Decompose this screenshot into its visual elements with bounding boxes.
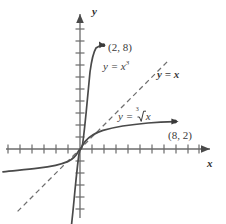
curve-label-identity: y = x (157, 69, 179, 80)
x-axis-arrowhead (201, 145, 210, 153)
cubic-endpoint-dot (102, 43, 106, 47)
point-label-2-8: (2, 8) (108, 42, 132, 53)
point-label-8-2: (8, 2) (168, 130, 192, 141)
graph-figure: y x (2, 8) y = x3 y = x y = 3x (8, 2) (0, 0, 226, 224)
cuberoot-curve (3, 122, 175, 172)
curve-label-cubic: y = x3 (103, 60, 129, 72)
radicand: x (146, 110, 151, 122)
plot-canvas (0, 0, 226, 224)
cuberoot-label-prefix: y = (118, 110, 136, 122)
radical-index: 3 (136, 106, 139, 112)
y-axis-arrowhead (76, 14, 84, 23)
x-axis-label: x (207, 158, 213, 169)
curve-label-cuberoot: y = 3x (118, 110, 151, 122)
cuberoot-endpoint-dot (173, 120, 177, 124)
y-axis-label: y (92, 6, 97, 17)
identity-line-dashed (18, 61, 168, 211)
cubic-label-exponent: 3 (126, 59, 130, 67)
radical-group: 3x (136, 110, 151, 122)
cubic-label-base: y = x (103, 60, 126, 72)
